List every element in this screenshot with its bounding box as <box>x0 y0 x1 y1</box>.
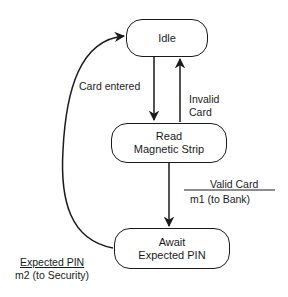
state-read-line1: Read <box>156 130 182 143</box>
state-await-line1: Await <box>159 236 186 249</box>
label-m1-to-bank: m1 (to Bank) <box>190 193 250 206</box>
label-card-entered: Card entered <box>79 80 140 93</box>
state-idle: Idle <box>126 19 208 57</box>
state-read-line2: Magnetic Strip <box>134 143 204 156</box>
state-read-magnetic-strip: Read Magnetic Strip <box>111 123 227 163</box>
state-await-line2: Expected PIN <box>138 249 205 262</box>
label-invalid-card: Invalid Card <box>189 93 219 119</box>
state-idle-label: Idle <box>158 32 176 45</box>
state-await-expected-pin: Await Expected PIN <box>114 228 230 269</box>
label-valid-card: Valid Card <box>210 178 258 191</box>
label-m2-to-security: m2 (to Security) <box>15 269 89 282</box>
label-expected-pin: Expected PIN <box>20 256 84 269</box>
